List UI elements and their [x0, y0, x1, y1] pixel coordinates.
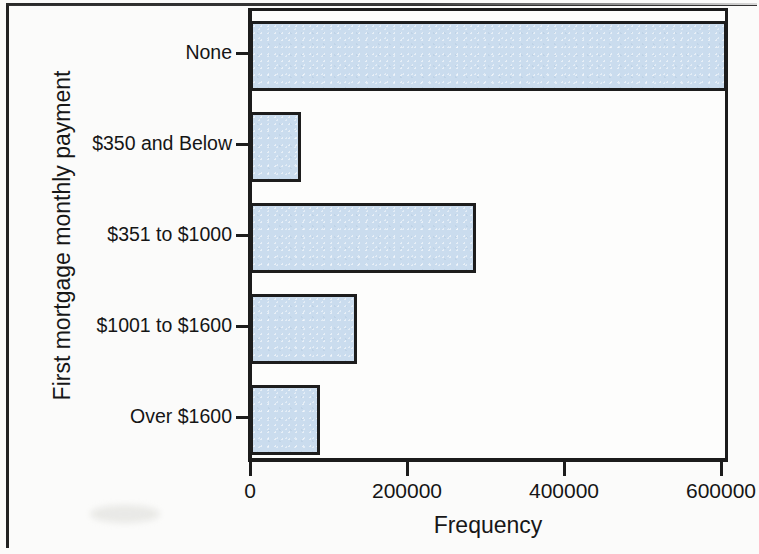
x-axis-tick [720, 462, 723, 476]
y-axis-tick-label-text: $1001 to $1600 [2, 314, 232, 337]
figure-top-border [6, 3, 757, 5]
bar [250, 21, 727, 91]
x-axis-tick [249, 462, 252, 476]
x-axis-tick-label: 600000 [686, 479, 756, 503]
y-axis-tick [236, 234, 249, 237]
y-axis-tick-label-text: Over $1600 [2, 405, 232, 428]
bar-fill-texture [253, 206, 473, 270]
y-axis-tick-label: None [0, 41, 232, 65]
y-axis-tick-label: $1001 to $1600 [0, 314, 232, 338]
x-axis-tick [406, 462, 409, 476]
bar [250, 385, 320, 455]
y-axis-tick [236, 325, 249, 328]
y-axis-tick-label: $350 and Below [0, 132, 232, 156]
y-axis-tick [236, 143, 249, 146]
y-axis-tick [236, 416, 249, 419]
chart-screenshot: First mortgage monthly payment None$350 … [0, 0, 759, 554]
y-axis-tick-label: Over $1600 [0, 405, 232, 429]
bar [250, 294, 357, 364]
x-axis-tick-label: 0 [244, 479, 256, 503]
bar-fill-texture [253, 388, 317, 452]
y-axis-tick-label-text: None [2, 41, 232, 64]
bars-layer [252, 11, 725, 458]
plot-area [248, 8, 728, 462]
y-axis-tick [236, 52, 249, 55]
x-axis-tick [563, 462, 566, 476]
x-axis-tick-label: 400000 [529, 479, 599, 503]
x-axis-tick-label: 200000 [372, 479, 442, 503]
x-axis-title: Frequency [248, 512, 728, 539]
bar-fill-texture [253, 115, 298, 179]
bar-fill-texture [253, 24, 724, 88]
bar-fill-texture [253, 297, 354, 361]
y-axis-tick-label-text: $350 and Below [2, 132, 232, 155]
bar [250, 203, 476, 273]
y-axis-tick-label-text: $351 to $1000 [2, 223, 232, 246]
y-axis-tick-label: $351 to $1000 [0, 223, 232, 247]
bar [250, 112, 301, 182]
